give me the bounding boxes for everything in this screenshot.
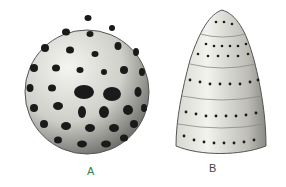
panel-label-a: A: [87, 165, 94, 177]
specimen-a: [25, 15, 149, 154]
panel-label-b: B: [209, 162, 216, 174]
figure-illustration: [0, 0, 286, 187]
specimen-b: [176, 10, 266, 154]
